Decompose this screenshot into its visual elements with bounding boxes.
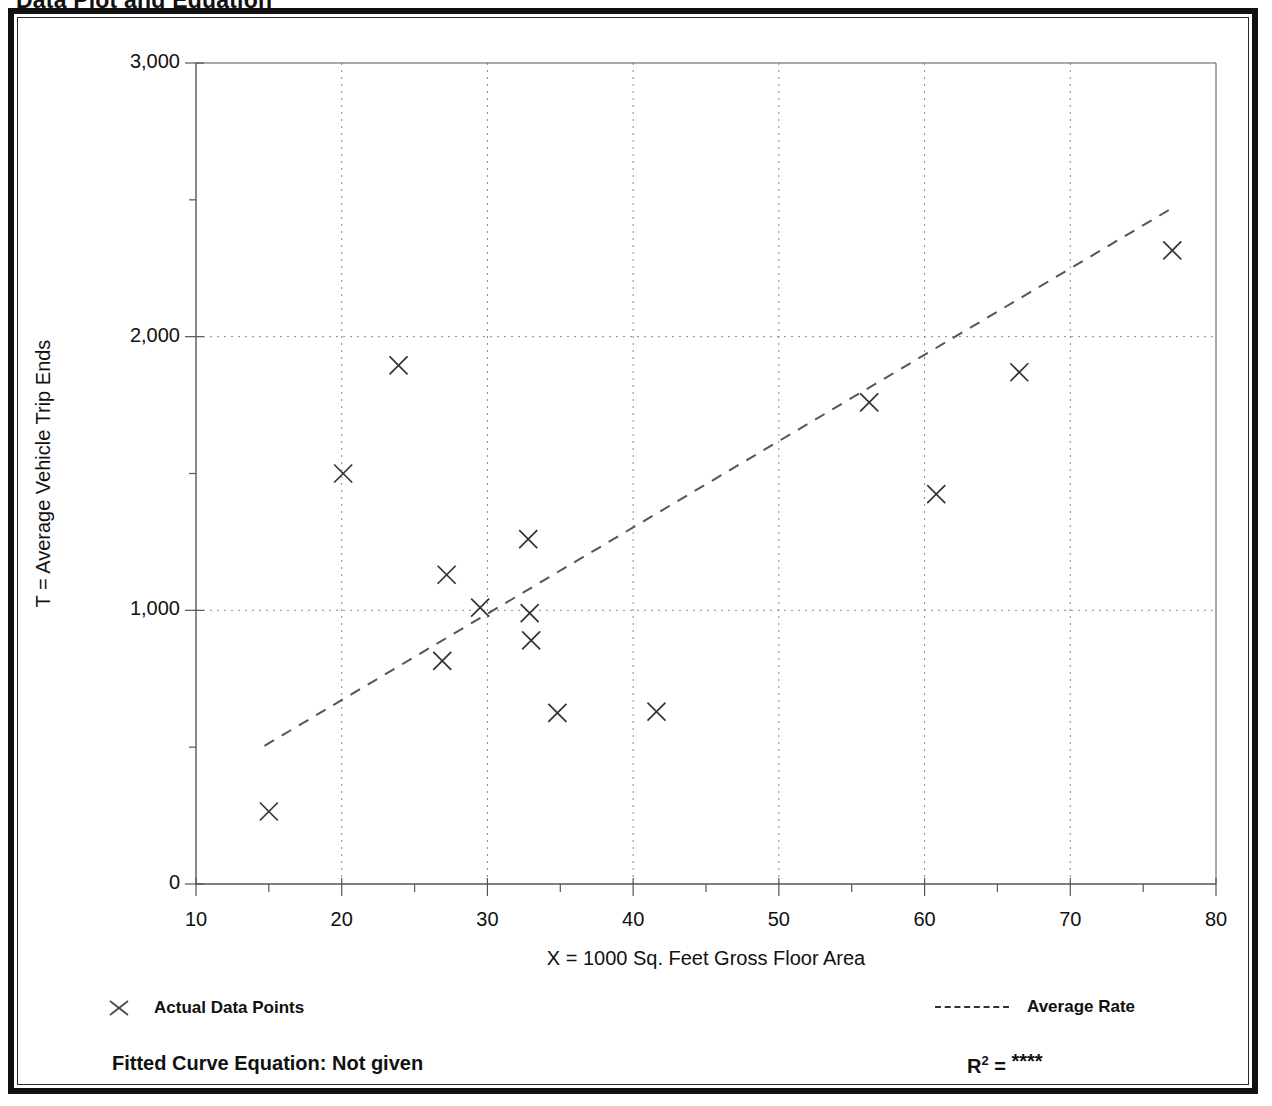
r-value: **** — [1011, 1050, 1042, 1072]
data-point-marker — [519, 530, 537, 548]
data-point-marker — [260, 802, 278, 820]
data-point-marker — [438, 566, 456, 584]
x-axis-tick-label: 40 — [593, 908, 673, 931]
data-point-marker — [433, 652, 451, 670]
legend-average-rate: Average Rate — [935, 997, 1135, 1017]
data-point-marker — [334, 465, 352, 483]
y-axis-tick-label: 2,000 — [70, 324, 180, 347]
data-point-marker — [548, 704, 566, 722]
legend-actual-data-points: Actual Data Points — [104, 997, 304, 1019]
x-axis-tick-label: 80 — [1176, 908, 1256, 931]
r-equals: = — [989, 1055, 1012, 1077]
x-axis-tick-label: 20 — [302, 908, 382, 931]
data-point-marker — [390, 356, 408, 374]
x-marker-icon — [104, 997, 134, 1019]
data-point-marker — [647, 703, 665, 721]
x-axis-tick-label: 50 — [739, 908, 819, 931]
r-squared-value: R2 = **** — [967, 1050, 1043, 1078]
x-axis-tick-label: 30 — [447, 908, 527, 931]
chart-container: 01,0002,0003,000 1020304050607080 T = Av… — [0, 0, 1272, 1106]
x-axis-tick-label: 10 — [156, 908, 236, 931]
data-point-marker — [522, 631, 540, 649]
average-rate-trendline — [264, 208, 1172, 746]
r-symbol: R — [967, 1055, 981, 1077]
data-point-marker — [1163, 241, 1181, 259]
legend-label-average-rate: Average Rate — [1027, 997, 1135, 1017]
y-axis-title: T = Average Vehicle Trip Ends — [32, 324, 55, 624]
y-axis-tick-label: 3,000 — [70, 50, 180, 73]
scatter-plot-canvas — [0, 0, 1272, 1106]
fitted-curve-equation: Fitted Curve Equation: Not given — [112, 1052, 423, 1075]
data-point-markers-group — [260, 241, 1181, 820]
data-point-marker — [471, 599, 489, 617]
x-axis-tick-label: 70 — [1030, 908, 1110, 931]
data-point-marker — [927, 485, 945, 503]
tick-marks-group — [185, 63, 1216, 896]
r-exponent: 2 — [981, 1053, 988, 1068]
x-axis-tick-label: 60 — [885, 908, 965, 931]
y-axis-tick-label: 1,000 — [70, 597, 180, 620]
dashed-line-icon — [935, 1006, 1009, 1008]
x-axis-title: X = 1000 Sq. Feet Gross Floor Area — [196, 947, 1216, 970]
y-axis-tick-label: 0 — [70, 871, 180, 894]
legend-label-actual-data-points: Actual Data Points — [154, 998, 304, 1018]
data-point-marker — [521, 604, 539, 622]
data-point-marker — [1010, 363, 1028, 381]
axes-group — [196, 63, 1216, 884]
gridlines-group — [196, 63, 1216, 884]
data-point-marker — [860, 393, 878, 411]
